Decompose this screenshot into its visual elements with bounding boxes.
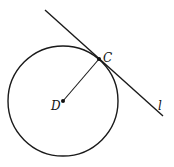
- point-c-dot: [97, 57, 101, 61]
- point-d-dot: [61, 99, 65, 103]
- label-point-c: C: [103, 51, 112, 65]
- radius-dc: [63, 59, 99, 101]
- geometry-diagram: C D l: [0, 0, 174, 167]
- label-line-l: l: [158, 99, 162, 113]
- label-point-d: D: [50, 99, 61, 113]
